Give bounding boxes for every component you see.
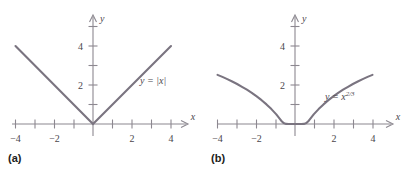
panel-a: −4 −2 2 4 2 4 x y y = |x| (a) <box>0 0 203 177</box>
y-axis-a <box>90 15 97 136</box>
x-axis-a <box>12 121 188 128</box>
x-tick-label-4-a: 4 <box>169 133 174 144</box>
x-tick-label-2-a: 2 <box>130 133 135 144</box>
equation-base-a: |x| <box>156 75 166 86</box>
x-axis-label-a: x <box>190 111 196 122</box>
figure-two-panel-graphs: −4 −2 2 4 2 4 x y y = |x| (a) <box>0 0 406 177</box>
equation-label-a: y = |x| <box>139 75 166 86</box>
equation-lhs-b: y = <box>324 91 341 102</box>
y-axis-label-a: y <box>99 13 105 24</box>
equation-exponent-b: 2/3 <box>346 90 355 98</box>
y-tick-label-4-b: 4 <box>280 41 285 52</box>
y-tick-label-4-a: 4 <box>78 41 83 52</box>
y-tick-label-2-a: 2 <box>78 80 83 91</box>
plot-b: −4 −2 2 4 2 4 x y y = x2/3 <box>203 0 406 150</box>
x-tick-label-4-b: 4 <box>371 133 376 144</box>
x-axis-label-b: x <box>395 111 401 122</box>
x-tick-label-2-b: 2 <box>332 133 337 144</box>
y-axis-b <box>292 15 299 136</box>
panel-caption-b: (b) <box>211 152 225 164</box>
y-tick-label-2-b: 2 <box>280 80 285 91</box>
x-tick-label-neg2-a: −2 <box>49 133 60 144</box>
x-tick-label-neg4-b: −4 <box>212 133 223 144</box>
y-axis-label-b: y <box>301 13 307 24</box>
panel-caption-a: (a) <box>8 152 21 164</box>
panel-b: −4 −2 2 4 2 4 x y y = x2/3 (b) <box>203 0 406 177</box>
plot-a: −4 −2 2 4 2 4 x y y = |x| <box>0 0 203 150</box>
x-tick-label-neg4-a: −4 <box>10 133 21 144</box>
x-tick-label-neg2-b: −2 <box>251 133 262 144</box>
equation-lhs-a: y = <box>139 75 156 86</box>
equation-label-b: y = x2/3 <box>324 90 355 102</box>
